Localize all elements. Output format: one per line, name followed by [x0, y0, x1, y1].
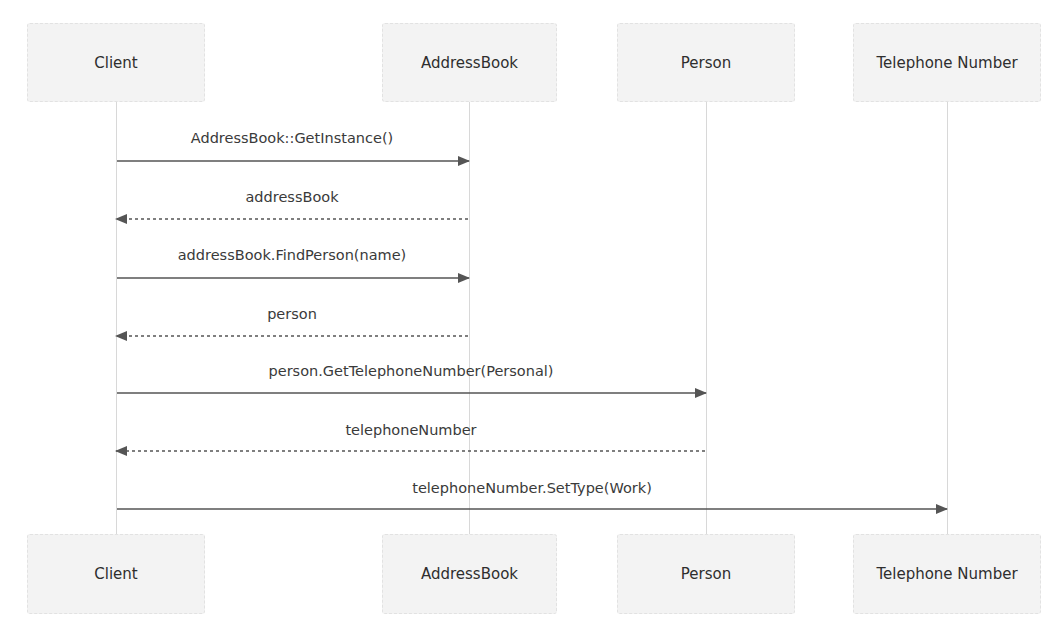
message-label-5: person.GetTelephoneNumber(Personal): [269, 362, 554, 380]
message-label-1: AddressBook::GetInstance(): [191, 129, 393, 147]
message-arrows: [0, 0, 1064, 632]
message-label-7: telephoneNumber.SetType(Work): [412, 479, 652, 497]
message-label-2: addressBook: [245, 188, 338, 206]
message-label-4: person: [267, 305, 317, 323]
message-label-3: addressBook.FindPerson(name): [178, 246, 407, 264]
message-label-6: telephoneNumber: [345, 421, 476, 439]
